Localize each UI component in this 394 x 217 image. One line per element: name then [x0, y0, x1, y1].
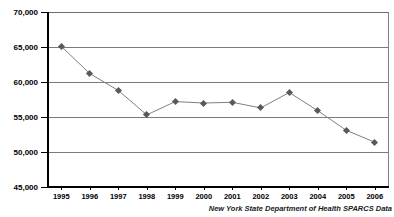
- x-tick-1996: [90, 186, 91, 190]
- x-tick-2004: [318, 186, 319, 190]
- y-axis: [47, 12, 49, 188]
- source-note-suffix: Data: [374, 204, 392, 213]
- x-tick-1995: [61, 186, 62, 190]
- data-point-2001: [229, 99, 236, 106]
- data-point-2003: [286, 89, 293, 96]
- y-tick-70000: [41, 12, 48, 13]
- data-point-2004: [314, 107, 321, 114]
- data-point-1997: [115, 87, 122, 94]
- x-tick-2006: [375, 186, 376, 190]
- x-tick-2000: [204, 186, 205, 190]
- x-tick-2005: [346, 186, 347, 190]
- plot-right-edge: [388, 12, 389, 186]
- data-point-2006: [371, 139, 378, 146]
- x-tick-1998: [147, 186, 148, 190]
- y-axis-label-1: 65,000: [0, 43, 38, 52]
- x-axis: [47, 186, 389, 188]
- x-tick-2003: [289, 186, 290, 190]
- data-point-1999: [172, 98, 179, 105]
- x-axis-label-2006: 2006: [358, 192, 392, 201]
- source-note: New York State Department of Health SPAR…: [0, 204, 392, 213]
- gridline-65000: [47, 47, 389, 48]
- y-tick-45000: [41, 187, 48, 188]
- data-point-2005: [343, 127, 350, 134]
- y-axis-label-0: 70,000: [0, 8, 38, 17]
- data-point-2000: [200, 99, 207, 106]
- gridline-70000: [47, 12, 389, 13]
- line-chart: 70,000 65,000 60,000 55,000 50,000 45,00…: [0, 0, 394, 217]
- x-tick-1999: [175, 186, 176, 190]
- source-note-emphasis: SPARCS: [343, 204, 374, 213]
- y-tick-65000: [41, 47, 48, 48]
- data-point-1996: [86, 70, 93, 77]
- x-tick-2002: [261, 186, 262, 190]
- source-note-prefix: New York State Department of Health: [209, 204, 343, 213]
- y-axis-label-5: 45,000: [0, 183, 38, 192]
- y-axis-label-2: 60,000: [0, 78, 38, 87]
- y-tick-55000: [41, 117, 48, 118]
- x-tick-1997: [118, 186, 119, 190]
- data-point-2002: [257, 104, 264, 111]
- x-tick-2001: [232, 186, 233, 190]
- y-axis-label-3: 55,000: [0, 113, 38, 122]
- gridline-50000: [47, 152, 389, 153]
- y-axis-label-4: 50,000: [0, 148, 38, 157]
- data-point-1995: [58, 43, 65, 50]
- data-line-layer: [0, 0, 394, 217]
- y-tick-60000: [41, 82, 48, 83]
- gridline-55000: [47, 117, 389, 118]
- y-tick-50000: [41, 152, 48, 153]
- gridline-60000: [47, 82, 389, 83]
